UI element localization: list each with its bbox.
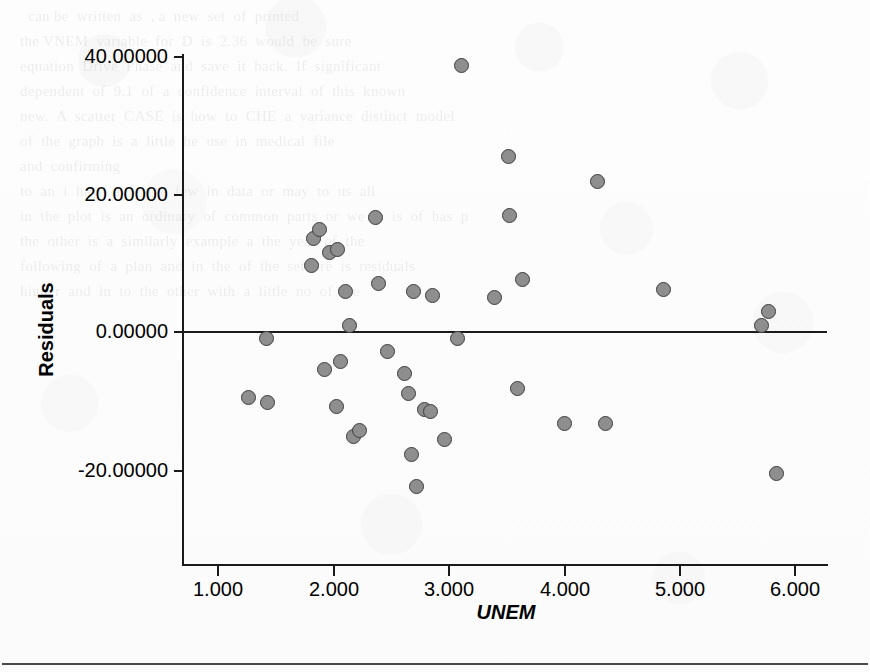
x-tick-4 bbox=[564, 566, 566, 576]
y-tick-40 bbox=[174, 56, 183, 58]
y-axis-title: Residuals bbox=[35, 250, 58, 410]
x-axis-title: UNEM bbox=[182, 601, 830, 624]
scatter-point bbox=[423, 404, 438, 419]
x-axis-line bbox=[182, 564, 828, 566]
scatter-point bbox=[409, 479, 424, 494]
scatter-point bbox=[260, 395, 275, 410]
x-tick-label-4: 4.000 bbox=[505, 578, 625, 601]
x-tick-label-2: 2.000 bbox=[274, 578, 394, 601]
x-tick-5 bbox=[679, 566, 681, 576]
y-tick-20 bbox=[174, 194, 183, 196]
x-tick-1 bbox=[217, 566, 219, 576]
page-background: can be written as , a new set of printed… bbox=[0, 0, 870, 672]
scatter-point bbox=[380, 344, 395, 359]
scatter-point bbox=[312, 222, 327, 237]
y-tick-neg20 bbox=[174, 470, 183, 472]
scatter-point bbox=[406, 284, 421, 299]
page-bottom-rule bbox=[2, 663, 868, 665]
scatter-point bbox=[761, 304, 776, 319]
scatter-point bbox=[342, 318, 357, 333]
y-tick-label-40: 40.00000 bbox=[10, 45, 168, 68]
scatter-point bbox=[425, 288, 440, 303]
scatter-point bbox=[333, 354, 348, 369]
scatter-point bbox=[404, 447, 419, 462]
scatter-point bbox=[769, 466, 784, 481]
zero-reference-line bbox=[184, 331, 827, 333]
scatter-point bbox=[338, 284, 353, 299]
scatter-point bbox=[330, 242, 345, 257]
y-tick-label-20: 20.00000 bbox=[10, 183, 168, 206]
scatter-point bbox=[590, 174, 605, 189]
scatter-point bbox=[317, 362, 332, 377]
scatter-point bbox=[368, 210, 383, 225]
x-tick-label-6: 6.000 bbox=[735, 578, 855, 601]
scatter-point bbox=[656, 282, 671, 297]
scatter-point bbox=[352, 423, 367, 438]
scatter-point bbox=[241, 390, 256, 405]
scatter-point bbox=[501, 149, 516, 164]
scatter-plot: 40.00000 20.00000 0.00000 -20.00000 1.00… bbox=[0, 0, 870, 672]
x-tick-label-1: 1.000 bbox=[158, 578, 278, 601]
scatter-point bbox=[397, 366, 412, 381]
scatter-point bbox=[259, 331, 274, 346]
scatter-point bbox=[401, 386, 416, 401]
scatter-point bbox=[510, 381, 525, 396]
scatter-point bbox=[450, 331, 465, 346]
scatter-point bbox=[502, 208, 517, 223]
y-tick-0 bbox=[174, 331, 183, 333]
x-tick-3 bbox=[448, 566, 450, 576]
scatter-point bbox=[598, 416, 613, 431]
scatter-point bbox=[515, 272, 530, 287]
scatter-point bbox=[487, 290, 502, 305]
scatter-point bbox=[557, 416, 572, 431]
x-tick-label-5: 5.000 bbox=[620, 578, 740, 601]
x-tick-2 bbox=[333, 566, 335, 576]
scatter-point bbox=[437, 432, 452, 447]
x-tick-6 bbox=[794, 566, 796, 576]
y-axis-line bbox=[182, 54, 184, 566]
scatter-point bbox=[454, 58, 469, 73]
scatter-point bbox=[304, 258, 319, 273]
scatter-point bbox=[371, 276, 386, 291]
x-tick-label-3: 3.000 bbox=[389, 578, 509, 601]
scatter-point bbox=[329, 399, 344, 414]
y-tick-label-neg20: -20.00000 bbox=[10, 459, 168, 482]
